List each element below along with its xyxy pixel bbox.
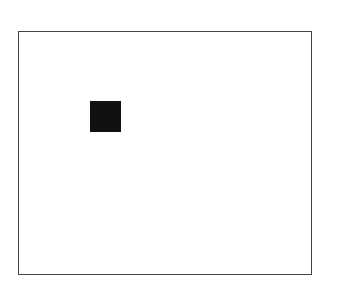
diagram-frame xyxy=(18,31,312,275)
black-square xyxy=(90,101,121,132)
